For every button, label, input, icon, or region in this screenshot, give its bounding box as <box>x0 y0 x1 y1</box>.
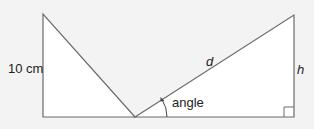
right-triangle <box>135 15 294 117</box>
triangles-figure <box>0 0 314 129</box>
diagram: 10 cm d h angle <box>0 0 314 129</box>
left-side-length-label: 10 cm <box>8 62 43 75</box>
hypotenuse-d-label: d <box>206 55 213 68</box>
height-h-label: h <box>297 63 304 76</box>
angle-label: angle <box>172 96 204 109</box>
left-triangle <box>43 14 135 117</box>
